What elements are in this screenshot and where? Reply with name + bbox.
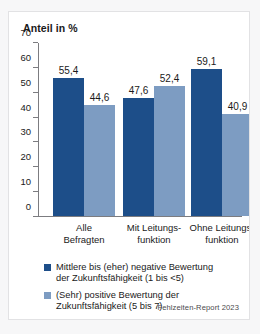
legend-label-negativ-line2: der Zukunftsfähigkeit (1 bis <5)	[56, 273, 244, 284]
source-credit: Fehlzeiten-Report 2023	[157, 303, 239, 312]
legend-swatch-negativ-icon	[44, 264, 51, 271]
bar-value-mit-leitungsfunktion-negativ: 47,6	[129, 85, 148, 96]
y-tick-0	[33, 216, 38, 217]
bar-ohne-leitungsfunktion-negativ[interactable]: 59,1	[191, 69, 222, 216]
x-axis-line	[38, 216, 242, 217]
bar-value-alle-befragten-positiv: 44,6	[90, 92, 109, 103]
y-tick-label-70: 70	[20, 27, 31, 38]
bar-ohne-leitungsfunktion-positiv[interactable]: 40,9	[222, 114, 250, 216]
category-label-line1: Alle	[76, 222, 92, 233]
y-tick-label-50: 50	[20, 76, 31, 87]
chart-card: Anteil in % 0 10 20 30 40 50 60 70 55,4 …	[8, 11, 250, 320]
y-tick-50	[33, 92, 38, 93]
y-tick-70	[33, 42, 38, 43]
plot-area: 0 10 20 30 40 50 60 70 55,4 44,6 Alle Be…	[38, 43, 242, 217]
legend-label-positiv-line1: (Sehr) positive Bewertung der	[56, 290, 244, 301]
legend-item-negativ[interactable]: Mittlere bis (eher) negative Bewertung d…	[44, 262, 244, 285]
legend-swatch-positiv-icon	[44, 292, 51, 299]
y-tick-label-0: 0	[26, 201, 31, 212]
y-tick-40	[33, 117, 38, 118]
bar-value-mit-leitungsfunktion-positiv: 52,4	[160, 73, 179, 84]
y-tick-label-20: 20	[20, 151, 31, 162]
bar-alle-befragten-negativ[interactable]: 55,4	[53, 78, 84, 216]
category-label-ohne-leitungsfunktion: Ohne Leitungs- funktion	[177, 222, 250, 245]
y-tick-label-40: 40	[20, 101, 31, 112]
y-tick-20	[33, 166, 38, 167]
category-label-line2: funktion	[137, 234, 170, 245]
y-tick-60	[33, 67, 38, 68]
category-label-line1: Mit Leitungs-	[127, 222, 181, 233]
bar-value-ohne-leitungsfunktion-positiv: 40,9	[228, 101, 247, 112]
bar-mit-leitungsfunktion-positiv[interactable]: 52,4	[154, 86, 185, 216]
axis-title: Anteil in %	[23, 22, 78, 34]
category-label-line1: Ohne Leitungs-	[190, 222, 250, 233]
bar-alle-befragten-positiv[interactable]: 44,6	[84, 105, 115, 216]
y-tick-30	[33, 141, 38, 142]
category-label-line2: Befragten	[63, 234, 104, 245]
bar-mit-leitungsfunktion-negativ[interactable]: 47,6	[123, 98, 154, 216]
y-axis-line	[38, 43, 39, 217]
legend-label-negativ-line1: Mittlere bis (eher) negative Bewertung	[56, 262, 244, 273]
bar-value-alle-befragten-negativ: 55,4	[59, 65, 78, 76]
y-tick-label-10: 10	[20, 176, 31, 187]
bar-value-ohne-leitungsfunktion-negativ: 59,1	[197, 56, 216, 67]
y-tick-label-60: 60	[20, 51, 31, 62]
y-tick-label-30: 30	[20, 126, 31, 137]
category-label-line2: funktion	[205, 234, 238, 245]
y-tick-10	[33, 191, 38, 192]
